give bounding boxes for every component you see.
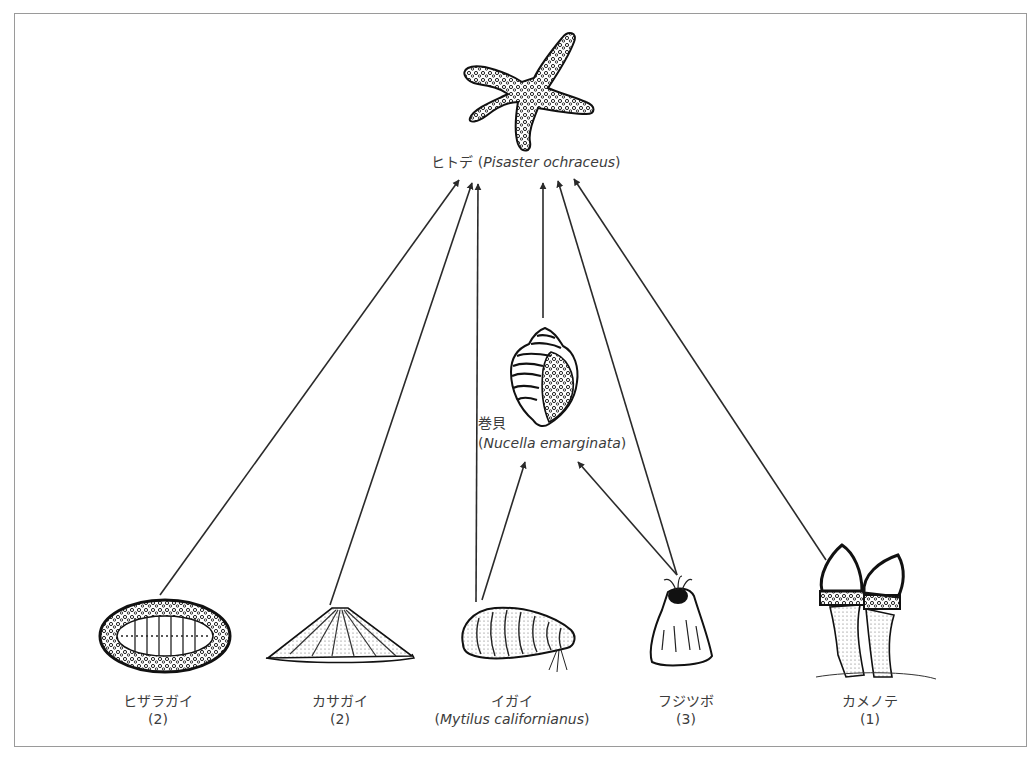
arrow-limpet-to-starfish [330,183,472,605]
starfish-icon [464,33,593,151]
food-web-arrows [160,179,826,605]
gooseneck-name-ja: カメノテ [842,692,898,710]
arrow-gooseneck-to-starfish [574,179,826,560]
limpet-count: (2) [312,710,368,728]
chiton-label: ヒザラガイ (2) [123,692,193,728]
arrow-barnacle-to-whelk [578,462,677,575]
gooseneck-count: (1) [842,710,898,728]
chiton-name-ja: ヒザラガイ [123,692,193,710]
mussel-name-sci: Mytilus californianus [440,711,584,727]
gooseneck-barnacle-icon [816,545,936,679]
chiton-icon [100,600,230,672]
starfish-name-sci: Pisaster ochraceus [483,154,615,170]
arrow-mussel-to-starfish [476,184,478,602]
whelk-label-sci: (Nucella emarginata) [478,434,626,452]
whelk-snail-icon [511,328,577,426]
whelk-label-ja: 巻貝 [478,414,506,432]
limpet-icon [266,608,414,663]
gooseneck-label: カメノテ (1) [842,692,898,728]
arrow-chiton-to-starfish [160,180,459,595]
barnacle-icon [651,576,712,665]
mussel-label: イガイ (Mytilus californianus) [435,692,590,728]
chiton-count: (2) [123,710,193,728]
food-web-diagram [0,0,1035,761]
barnacle-name-ja: フジツボ [658,692,714,710]
starfish-name-ja: ヒトデ [431,154,473,170]
barnacle-label: フジツボ (3) [658,692,714,728]
arrow-mussel-to-whelk [482,462,525,600]
starfish-label: ヒトデ (Pisaster ochraceus) [431,153,620,171]
barnacle-count: (3) [658,710,714,728]
limpet-label: カサガイ (2) [312,692,368,728]
mussel-name-ja: イガイ [435,692,590,710]
limpet-name-ja: カサガイ [312,692,368,710]
mussel-icon [462,608,574,672]
